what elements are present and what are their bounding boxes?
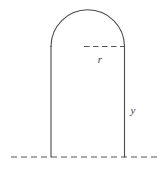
geometry-figure: r y — [0, 0, 168, 173]
radius-label: r — [98, 53, 103, 65]
figure-background — [0, 0, 168, 173]
height-label: y — [130, 104, 136, 116]
figure-canvas: r y — [0, 0, 168, 173]
